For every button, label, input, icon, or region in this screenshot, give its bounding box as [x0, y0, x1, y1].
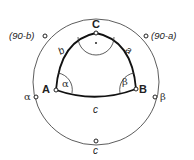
angle-arc-C: [78, 37, 114, 55]
point-c: [94, 139, 98, 143]
label-angle-alpha: α: [62, 78, 69, 89]
point-90-b: [43, 34, 47, 38]
point-90-a: [144, 34, 148, 38]
vertex-C-point: [94, 31, 98, 35]
label-outer-alpha: α: [24, 91, 31, 102]
vertex-A-point: [54, 88, 58, 92]
right-angle-dot: [95, 42, 97, 44]
label-90-b: (90-b): [9, 30, 34, 41]
label-A: A: [42, 83, 50, 95]
label-C: C: [92, 18, 100, 30]
point-alpha: [34, 95, 38, 99]
label-B: B: [139, 83, 147, 95]
label-side-c: c: [93, 104, 98, 115]
label-side-a: a: [124, 44, 135, 57]
spherical-triangle-diagram: C A B b a c α β (90-b) (90-a) α β c: [0, 0, 194, 160]
point-beta: [153, 95, 157, 99]
label-angle-beta: β: [122, 76, 128, 87]
outer-circle: [33, 19, 159, 145]
vertex-B-point: [134, 87, 138, 91]
label-90-a: (90-a): [151, 30, 176, 41]
label-outer-c: c: [93, 145, 98, 156]
label-outer-beta: β: [160, 91, 166, 102]
